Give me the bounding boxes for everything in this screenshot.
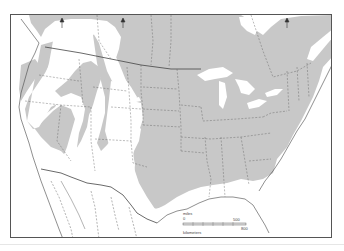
scale-km-end: 800 — [241, 226, 248, 231]
divider — [0, 244, 344, 245]
map-frame: miles 0 500 800 kilometers — [10, 14, 332, 238]
scale-km-label: kilometers — [183, 230, 201, 235]
range-map: miles 0 500 800 kilometers — [11, 15, 332, 238]
scale-miles-end: 500 — [233, 217, 240, 222]
